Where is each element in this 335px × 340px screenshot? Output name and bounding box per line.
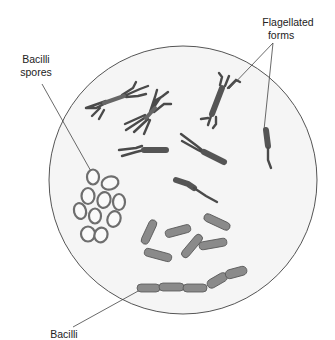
microscope-field-diagram: Bacilli spores Flagellated forms Bacilli	[0, 0, 335, 340]
label-bacilli-spores-line1: Bacilli	[22, 53, 49, 65]
label-flagellated-line2: forms	[268, 29, 294, 41]
label-flagellated-line1: Flagellated	[262, 16, 314, 28]
label-bacilli-spores-line2: spores	[20, 66, 52, 78]
label-bacilli: Bacilli	[50, 328, 77, 340]
